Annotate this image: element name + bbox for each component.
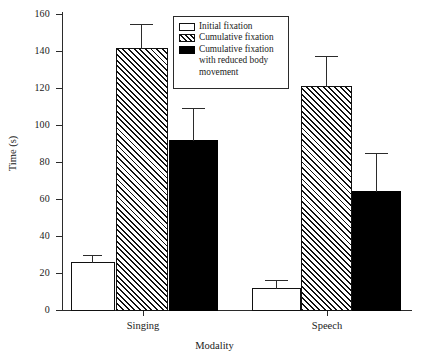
legend-item-initial-fixation: Initial fixation	[179, 21, 284, 32]
y-tick-mark-20	[56, 273, 62, 274]
x-tick-label-speech: Speech	[287, 320, 367, 332]
error-bar-cap-singing-reduced-body-movement	[182, 108, 205, 109]
y-tick-mark-160	[56, 14, 62, 15]
bar-singing-initial-fixation	[71, 262, 115, 311]
y-tick-label-140: 140	[10, 46, 50, 56]
legend-item-cumulative-fixation: Cumulative fixation	[179, 32, 284, 43]
y-tick-label-20: 20	[10, 268, 50, 278]
x-tick-mark-speech	[327, 311, 328, 316]
error-bar-cap-speech-reduced-body-movement	[365, 153, 388, 154]
error-bar-stem-singing-cumulative-fixation	[141, 24, 142, 49]
error-bar-stem-speech-reduced-body-movement	[376, 153, 377, 192]
legend-label-initial-fixation: Initial fixation	[199, 21, 252, 32]
legend-swatch-solid-icon	[179, 46, 195, 54]
y-axis-title: Time (s)	[7, 99, 18, 209]
x-tick-label-singing: Singing	[103, 320, 183, 332]
y-tick-mark-140	[56, 51, 62, 52]
y-tick-label-40: 40	[10, 231, 50, 241]
y-tick-mark-120	[56, 88, 62, 89]
bar-speech-cumulative-fixation	[301, 86, 352, 311]
legend-swatch-open-icon	[179, 23, 195, 31]
error-bar-cap-speech-initial-fixation	[265, 280, 288, 281]
y-tick-mark-40	[56, 236, 62, 237]
legend-label-cumulative-fixation: Cumulative fixation	[199, 32, 274, 43]
error-bar-stem-singing-reduced-body-movement	[193, 108, 194, 141]
bar-chart-figure: 0 20 40 60 80 100 120 140 160 Time (s) S…	[0, 0, 429, 359]
bar-singing-cumulative-fixation	[116, 48, 168, 311]
y-axis-spine	[62, 12, 63, 311]
error-bar-stem-speech-initial-fixation	[276, 280, 277, 289]
x-tick-mark-singing	[143, 311, 144, 316]
bar-singing-cumulative-fixation-reduced-body-movement	[169, 140, 218, 311]
y-tick-label-160: 160	[10, 9, 50, 19]
y-tick-label-0: 0	[10, 305, 50, 315]
legend-swatch-hatched-icon	[179, 34, 195, 42]
legend-item-cumulative-fixation-reduced-body-movement: Cumulative fixation with reduced body mo…	[179, 44, 284, 78]
legend-label-cumulative-fixation-reduced-body-movement: Cumulative fixation with reduced body mo…	[199, 44, 274, 78]
y-tick-mark-60	[56, 199, 62, 200]
bar-speech-cumulative-fixation-reduced-body-movement	[352, 191, 401, 311]
x-axis-title: Modality	[0, 340, 429, 351]
y-tick-mark-100	[56, 125, 62, 126]
error-bar-stem-speech-cumulative-fixation	[326, 56, 327, 87]
bar-speech-initial-fixation	[252, 288, 301, 311]
error-bar-cap-singing-initial-fixation	[83, 255, 102, 256]
error-bar-cap-singing-cumulative-fixation	[130, 24, 153, 25]
chart-legend: Initial fixation Cumulative fixation Cum…	[173, 16, 289, 89]
error-bar-cap-speech-cumulative-fixation	[315, 56, 338, 57]
y-tick-mark-80	[56, 162, 62, 163]
y-tick-label-120: 120	[10, 83, 50, 93]
error-bar-stem-singing-initial-fixation	[92, 255, 93, 263]
